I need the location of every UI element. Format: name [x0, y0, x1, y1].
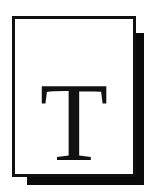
letter-t-glyph: T — [15, 66, 133, 178]
page-frame: T — [12, 16, 136, 177]
